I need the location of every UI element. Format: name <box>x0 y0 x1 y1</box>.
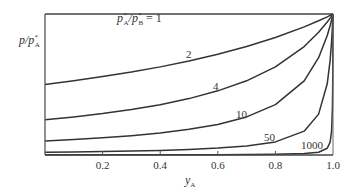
x-axis-label: yA <box>184 173 195 189</box>
ratio-annotation: p*A/p*B = 1 <box>116 11 162 27</box>
x-tick-label: 1.0 <box>326 159 340 171</box>
x-tick-label: 0.4 <box>153 159 167 171</box>
curve-label-4: 4 <box>213 80 219 92</box>
curve-ratio-10 <box>45 14 333 141</box>
curve-ratio-50 <box>45 14 333 152</box>
curve-label-50: 50 <box>264 131 276 143</box>
curve-label-10: 10 <box>236 108 248 120</box>
chart: 0.20.40.60.81.0 p*A/p*B = 1 p/p*A yA 2 4… <box>0 0 356 193</box>
curve-label-2: 2 <box>186 48 192 60</box>
x-tick-label: 0.8 <box>269 159 283 171</box>
y-axis-label: p/p*A <box>18 33 40 49</box>
x-tick-label: 0.2 <box>96 159 110 171</box>
curves-group <box>45 14 333 155</box>
curve-ratio-1000 <box>45 14 333 155</box>
curve-ratio-4 <box>45 14 333 120</box>
curve-label-1000: 1000 <box>301 139 324 151</box>
x-tick-label: 0.6 <box>211 159 225 171</box>
